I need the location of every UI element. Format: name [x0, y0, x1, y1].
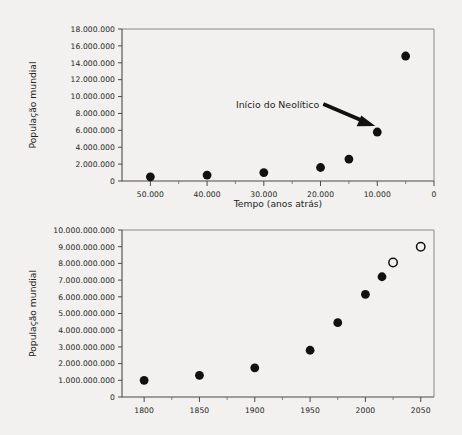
data-point [401, 52, 410, 61]
data-point [195, 371, 204, 380]
y-axis-tick-label: 8.000.000.000 [58, 259, 115, 268]
x-axis-tick-label: 1950 [300, 406, 320, 415]
data-point [373, 128, 382, 137]
y-axis-tick-label: 4.000.000 [75, 143, 115, 152]
scatter-plot-bottom: 01.000.000.0002.000.000.0003.000.000.000… [0, 218, 462, 435]
x-axis-tick-label: 2050 [411, 406, 431, 415]
x-axis-tick-label: 50.000 [137, 190, 164, 199]
scatter-plot-top: 02.000.0004.000.0006.000.0008.000.00010.… [0, 0, 462, 218]
y-axis-tick-label: 2.000.000 [75, 160, 115, 169]
y-axis-tick-label: 2.000.000.000 [58, 359, 115, 368]
y-axis-tick-label: 12.000.000 [71, 75, 116, 84]
data-point-projected [389, 258, 397, 266]
y-axis-tick-label: 3.000.000.000 [58, 343, 115, 352]
y-axis-tick-label: 9.000.000.000 [58, 243, 115, 252]
x-axis-tick-label: 40.000 [194, 190, 221, 199]
data-point [333, 318, 342, 327]
y-axis-tick-label: 16.000.000 [71, 42, 116, 51]
data-point [361, 290, 370, 299]
x-axis-tick-label: 2000 [356, 406, 376, 415]
x-axis-tick-label: 1850 [190, 406, 210, 415]
annotation-label: Início do Neolítico [236, 99, 320, 110]
data-point [316, 163, 325, 172]
y-axis-title: População mundial [27, 61, 38, 148]
y-axis-tick-label: 18.000.000 [71, 25, 116, 34]
data-point [140, 376, 149, 385]
y-axis-tick-label: 10.000.000 [71, 92, 116, 101]
annotation-arrow-icon [323, 102, 376, 126]
x-axis-tick-label: 1900 [245, 406, 265, 415]
data-point [259, 168, 268, 177]
chart-bottom-modern-population: 01.000.000.0002.000.000.0003.000.000.000… [0, 218, 462, 435]
y-axis-tick-label: 10.000.000.000 [53, 226, 115, 235]
y-axis-tick-label: 0 [110, 393, 115, 402]
y-axis-tick-label: 6.000.000.000 [58, 293, 115, 302]
chart-top-prehistoric-population: 02.000.0004.000.0006.000.0008.000.00010.… [0, 0, 462, 218]
y-axis-tick-label: 7.000.000.000 [58, 276, 115, 285]
y-axis-tick-label: 5.000.000.000 [58, 309, 115, 318]
data-point [146, 172, 155, 181]
data-point [306, 346, 315, 355]
plot-frame [122, 230, 434, 397]
data-point [203, 171, 212, 180]
y-axis-title: População mundial [27, 270, 38, 357]
y-axis-tick-label: 4.000.000.000 [58, 326, 115, 335]
x-axis-tick-label: 10.000 [364, 190, 391, 199]
y-axis-tick-label: 1.000.000.000 [58, 376, 115, 385]
x-axis-tick-label: 1800 [134, 406, 154, 415]
x-axis-tick-label: 0 [432, 190, 437, 199]
data-point [378, 272, 387, 281]
plot-axes [122, 230, 434, 397]
y-axis-tick-label: 0 [110, 177, 115, 186]
x-axis-title: Tempo (anos atrás) [233, 198, 322, 209]
data-point-projected [417, 243, 425, 251]
data-point [250, 363, 259, 372]
data-point [345, 155, 354, 164]
y-axis-tick-label: 6.000.000 [75, 126, 115, 135]
y-axis-tick-label: 14.000.000 [71, 59, 116, 68]
y-axis-tick-label: 8.000.000 [75, 109, 115, 118]
